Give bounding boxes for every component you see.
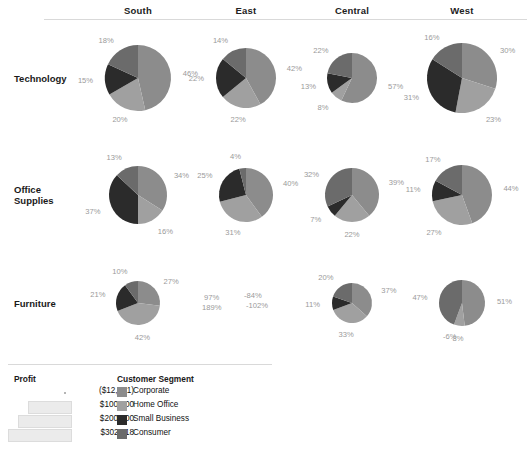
pie-cell-office-supplies-east[interactable]: 40%31%25%4%	[189, 138, 303, 252]
segment-color-swatch	[117, 401, 127, 411]
pie-cell-office-supplies-west[interactable]: 44%27%11%17%	[402, 135, 522, 255]
slice-label: 7%	[310, 215, 321, 224]
column-header-east: East	[206, 5, 286, 16]
slice-label: 47%	[412, 293, 427, 302]
slice-label: 20%	[112, 115, 127, 124]
pie-slice-corporate[interactable]	[138, 281, 160, 306]
pie-cell-furniture-west[interactable]: 51%8%-6%47%	[409, 250, 515, 356]
column-header-central: Central	[312, 5, 392, 16]
slice-label: 11%	[305, 300, 320, 309]
pie-cell-furniture-central[interactable]: 37%33%11%20%	[302, 253, 402, 353]
slice-label: 31%	[404, 93, 419, 102]
legend-divider	[8, 364, 272, 365]
slice-label: 4%	[230, 152, 241, 161]
slice-label: 44%	[503, 184, 518, 193]
size-legend-item[interactable]: $200,000	[14, 414, 134, 427]
pie-cell-technology-west[interactable]: 30%23%31%16%	[397, 13, 527, 143]
slice-label: 51%	[497, 297, 512, 306]
size-legend-bar	[28, 401, 72, 414]
slice-label: 18%	[98, 36, 113, 45]
row-header-technology: Technology	[14, 73, 74, 84]
pie-cell-office-supplies-central[interactable]: 39%22%7%32%	[295, 138, 409, 252]
segment-color-swatch	[117, 415, 127, 425]
row-header-office-supplies: Office Supplies	[14, 184, 74, 206]
pie-cell-furniture-south[interactable]: 27%42%21%10%	[86, 251, 190, 355]
slice-label: 10%	[112, 267, 127, 276]
slice-label: 30%	[500, 46, 515, 55]
segment-color-swatch	[117, 429, 127, 439]
size-legend-item[interactable]: ($12,721)	[14, 386, 134, 399]
slice-label: -6%	[443, 332, 457, 341]
slice-label: -84%	[244, 291, 262, 300]
pie-chart-matrix: SouthEastCentralWest TechnologyOffice Su…	[0, 0, 531, 456]
size-legend-dot	[64, 392, 66, 394]
slice-label: 25%	[197, 171, 212, 180]
segment-legend-label: Small Business	[133, 414, 189, 423]
slice-label: 27%	[164, 277, 179, 286]
slice-label: 22%	[230, 115, 245, 124]
segment-color-swatch	[117, 387, 127, 397]
row-header-furniture: Furniture	[14, 298, 74, 309]
slice-label: 14%	[213, 36, 228, 45]
segment-legend-label: Home Office	[133, 400, 178, 409]
pie-cell-technology-south[interactable]: 46%20%15%18%	[75, 15, 201, 141]
slice-label: 23%	[486, 115, 501, 124]
slice-label: 16%	[158, 227, 173, 236]
segment-legend-item[interactable]: Corporate	[117, 386, 267, 399]
slice-label: 22%	[313, 46, 328, 55]
slice-label: 27%	[426, 228, 441, 237]
slice-label: 16%	[424, 33, 439, 42]
size-legend-bar	[8, 429, 72, 442]
slice-label: 32%	[304, 170, 319, 179]
pie-cell-office-supplies-south[interactable]: 34%16%37%13%	[79, 136, 197, 254]
pie-cell-furniture-east[interactable]: 97%-84%189%-102%	[202, 289, 290, 317]
slice-label: 11%	[406, 185, 421, 194]
size-legend-item[interactable]: $100,000	[14, 400, 134, 413]
slice-label: 17%	[425, 155, 440, 164]
segment-legend-item[interactable]: Small Business	[117, 414, 267, 427]
slice-label: 22%	[189, 74, 204, 83]
slice-label: 21%	[90, 290, 105, 299]
segment-legend-item[interactable]: Consumer	[117, 428, 267, 441]
segment-legend-label: Consumer	[133, 428, 171, 437]
slice-label: 34%	[174, 171, 189, 180]
slice-label: 189%	[202, 303, 221, 312]
slice-label: 20%	[318, 273, 333, 282]
slice-label: 97%	[204, 293, 219, 302]
size-legend-item[interactable]: $302,118	[14, 428, 134, 441]
pie-cell-technology-east[interactable]: 42%22%22%14%	[186, 18, 306, 138]
slice-label: 31%	[225, 228, 240, 237]
slice-label: 13%	[301, 82, 316, 91]
segment-legend-label: Corporate	[133, 386, 169, 395]
size-legend-bar	[18, 415, 72, 428]
slice-label: 37%	[381, 286, 396, 295]
segment-legend-item[interactable]: Home Office	[117, 400, 267, 413]
slice-label: 42%	[135, 333, 150, 342]
size-legend-title: Profit	[14, 374, 36, 384]
pie-cell-technology-central[interactable]: 57%8%13%22%	[297, 23, 407, 133]
slice-label: 13%	[106, 153, 121, 162]
slice-label: 33%	[338, 330, 353, 339]
slice-label: -102%	[246, 301, 268, 310]
slice-label: 8%	[317, 103, 328, 112]
slice-label: 15%	[78, 76, 93, 85]
slice-label: 22%	[344, 230, 359, 239]
pie-slice-corporate[interactable]	[462, 280, 485, 326]
color-legend-title: Customer Segment	[117, 374, 194, 384]
slice-label: 37%	[85, 207, 100, 216]
